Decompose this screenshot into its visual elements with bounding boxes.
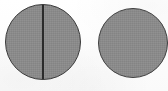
shape-layer — [0, 0, 168, 91]
figure-canvas — [0, 0, 168, 91]
circle-right — [98, 8, 168, 78]
vertical-diameter-line — [42, 5, 44, 79]
